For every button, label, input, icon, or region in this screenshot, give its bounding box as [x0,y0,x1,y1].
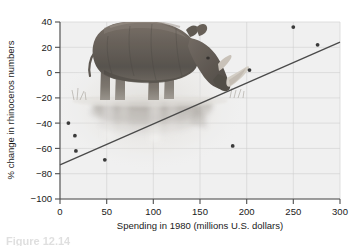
data-point [316,43,320,47]
x-axis-title: Spending in 1980 (millions U.S. dollars) [117,220,283,231]
x-tick-label: 200 [239,206,255,217]
data-point [103,158,107,162]
y-tick-label: −60 [36,143,52,154]
data-point [231,144,235,148]
y-tick-label: 20 [41,42,52,53]
y-tick-label: −20 [36,92,52,103]
data-point [248,68,252,72]
data-point [291,25,295,29]
y-tick-label: 40 [41,16,52,27]
data-point [73,134,77,138]
data-point [74,149,78,153]
x-tick-label: 100 [145,206,161,217]
x-tick-label: 0 [57,206,62,217]
x-tick-label: 150 [192,206,208,217]
y-axis-title: % change in rhinoceros numbers [5,40,16,179]
y-tick-label: −80 [36,168,52,179]
scatter-plot-figure: 40 20 0 −20 −40 −60 −80 −100 0 50 100 15… [0,0,364,246]
x-tick-label: 50 [101,206,112,217]
figure-caption: Figure 12.14 [6,235,71,246]
y-tick-label: 0 [47,67,52,78]
plot-area [55,21,340,199]
y-tick-label: −40 [36,118,52,129]
data-point [67,121,71,125]
x-tick-label: 250 [285,206,301,217]
y-tick-label: −100 [31,193,52,204]
x-tick-label: 300 [332,206,348,217]
rhinoceros-photograph [55,21,340,199]
